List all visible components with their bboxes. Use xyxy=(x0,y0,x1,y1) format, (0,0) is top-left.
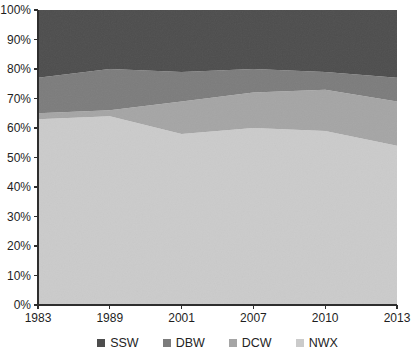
x-axis-label: 2007 xyxy=(240,311,267,325)
chart-legend: SSWDBWDCWNWX xyxy=(38,333,397,353)
legend-label-nwx: NWX xyxy=(309,337,338,350)
legend-swatch-ssw xyxy=(97,339,105,347)
stacked-area-chart-figure: 0%10%20%30%40%50%60%70%80%90%100% 198319… xyxy=(0,0,416,359)
chart-plot-area: 0%10%20%30%40%50%60%70%80%90%100% 198319… xyxy=(0,0,416,359)
x-axis-label: 2013 xyxy=(384,311,411,325)
x-axis-labels: 198319892001200720102013 xyxy=(25,311,411,325)
x-axis-label: 2001 xyxy=(168,311,195,325)
scan-grain-overlay xyxy=(38,10,397,305)
y-axis-label: 30% xyxy=(7,210,31,224)
y-axis-label: 40% xyxy=(7,180,31,194)
y-axis-label: 70% xyxy=(7,92,31,106)
legend-label-ssw: SSW xyxy=(110,337,138,350)
legend-item-dcw: DCW xyxy=(229,337,272,350)
y-axis-label: 80% xyxy=(7,62,31,76)
legend-item-dbw: DBW xyxy=(163,337,205,350)
legend-swatch-nwx xyxy=(296,339,304,347)
y-axis-label: 10% xyxy=(7,269,31,283)
legend-item-nwx: NWX xyxy=(296,337,338,350)
y-axis-label: 20% xyxy=(7,239,31,253)
legend-label-dcw: DCW xyxy=(242,337,272,350)
legend-label-dbw: DBW xyxy=(176,337,205,350)
legend-item-ssw: SSW xyxy=(97,337,138,350)
x-axis-label: 1989 xyxy=(96,311,123,325)
y-axis-labels: 0%10%20%30%40%50%60%70%80%90%100% xyxy=(0,3,31,312)
y-axis-label: 50% xyxy=(7,151,31,165)
y-axis-label: 100% xyxy=(0,3,31,17)
y-axis-label: 90% xyxy=(7,33,31,47)
x-axis-label: 2010 xyxy=(312,311,339,325)
y-axis-label: 60% xyxy=(7,121,31,135)
legend-swatch-dcw xyxy=(229,339,237,347)
legend-swatch-dbw xyxy=(163,339,171,347)
x-axis-label: 1983 xyxy=(25,311,52,325)
y-axis-label: 0% xyxy=(14,298,32,312)
